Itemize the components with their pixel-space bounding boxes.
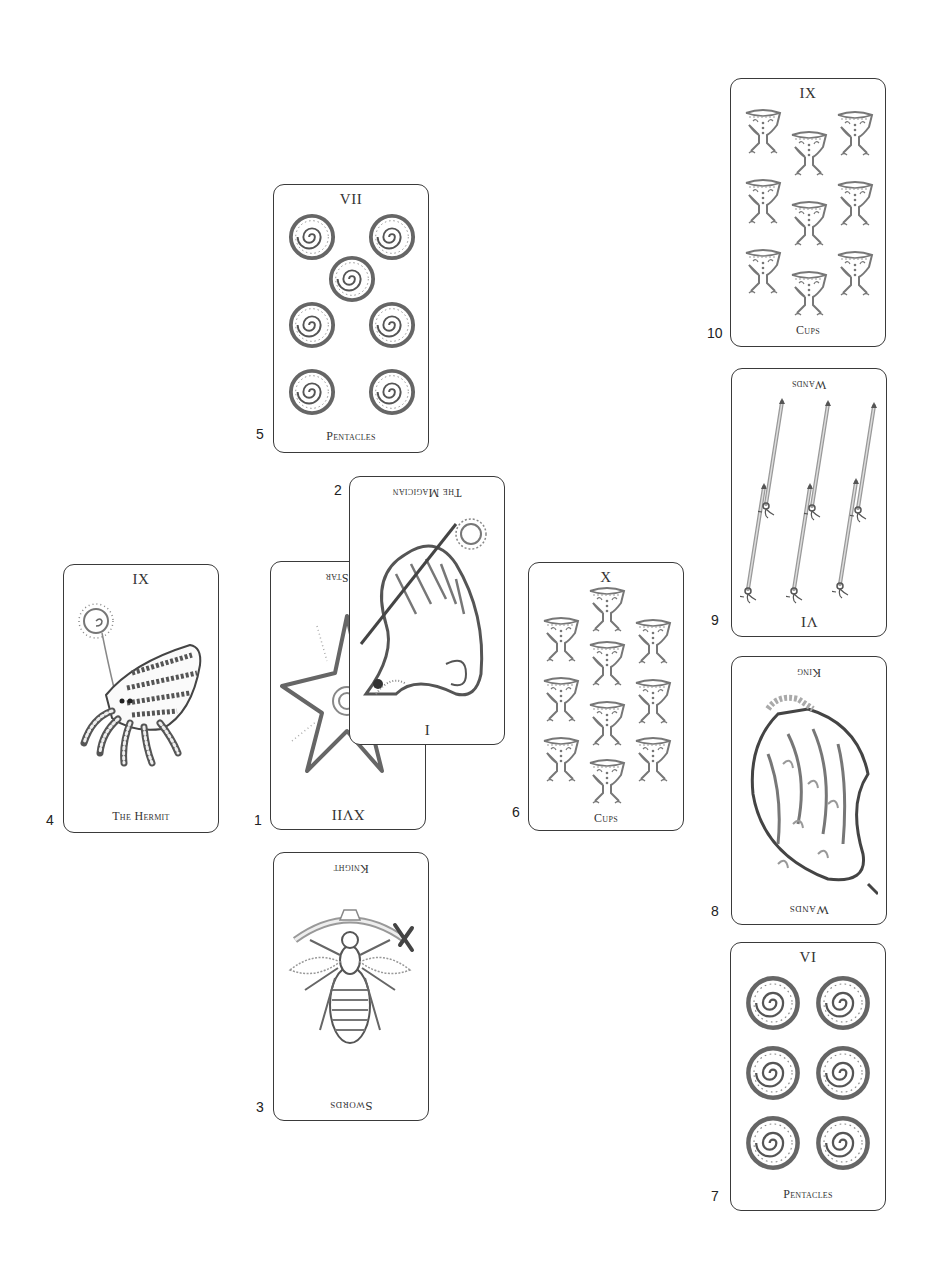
card-six-of-wands-reversed[interactable]: VI Wands: [731, 368, 887, 637]
card-numeral: IX: [64, 571, 218, 588]
card-title: Pentacles: [274, 429, 428, 444]
card-king-of-wands-reversed[interactable]: Wands King: [731, 656, 887, 925]
position-label-3: 3: [256, 1099, 264, 1115]
position-label-7: 7: [711, 1188, 719, 1204]
cups-art-icon: [537, 585, 675, 802]
card-title: Knight: [274, 861, 428, 876]
card-six-of-pentacles[interactable]: VI Pentacles: [730, 942, 886, 1211]
card-numeral: IX: [731, 85, 885, 102]
card-title: The Hermit: [64, 809, 218, 824]
card-knight-of-swords-reversed[interactable]: Swords Knight: [273, 852, 429, 1121]
wands-art-icon: [740, 397, 878, 608]
card-numeral: XVII: [271, 806, 425, 823]
hermit-crab-icon: [72, 593, 210, 804]
card-ten-of-cups[interactable]: X Cups: [528, 562, 684, 831]
card-numeral: I: [350, 721, 504, 738]
position-label-10: 10: [707, 325, 723, 341]
position-label-5: 5: [256, 426, 264, 442]
position-label-2: 2: [334, 482, 342, 498]
card-numeral: VII: [274, 191, 428, 208]
position-label-4: 4: [46, 812, 54, 828]
position-label-6: 6: [512, 804, 520, 820]
card-the-hermit[interactable]: IX The Hermit: [63, 564, 219, 833]
card-numeral: X: [529, 569, 683, 586]
card-suit: Swords: [274, 1098, 428, 1114]
pentacles-art-icon: [739, 971, 877, 1182]
pentacles-art-icon: [282, 213, 420, 424]
card-suit: Wands: [732, 902, 886, 918]
card-numeral: VI: [731, 949, 885, 966]
position-label-9: 9: [711, 612, 719, 628]
fire-bird-icon: [740, 685, 878, 896]
chameleon-icon: [358, 505, 496, 716]
cups-art-icon: [739, 107, 877, 318]
card-title: Cups: [529, 811, 683, 826]
card-the-magician-reversed[interactable]: I The Magician: [349, 476, 505, 745]
position-label-8: 8: [711, 903, 719, 919]
card-title: The Magician: [350, 485, 504, 500]
card-title: Pentacles: [731, 1187, 885, 1202]
card-title: King: [732, 665, 886, 680]
card-seven-of-pentacles[interactable]: VII Pentacles: [273, 184, 429, 453]
position-label-1: 1: [254, 812, 262, 828]
insect-sword-icon: [282, 881, 420, 1092]
card-title: Cups: [731, 323, 885, 338]
card-nine-of-cups[interactable]: IX Cups: [730, 78, 886, 347]
card-title: Wands: [732, 377, 886, 392]
card-numeral: VI: [732, 613, 886, 630]
